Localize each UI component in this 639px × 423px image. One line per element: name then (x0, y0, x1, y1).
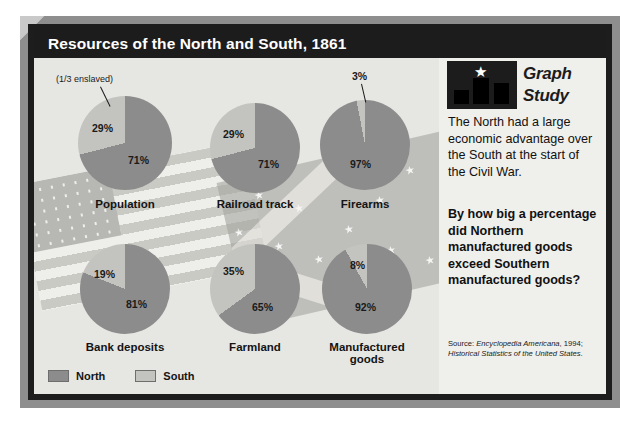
pie-manufactured-goods (322, 244, 412, 334)
pie-population-north-value: 71% (128, 154, 149, 166)
source-citation: Source: Encyclopedia Americana, 1994; Hi… (448, 339, 598, 359)
side-panel: ★ Graph Study The North had a large econ… (439, 58, 606, 394)
source-prefix: Source: (448, 339, 476, 348)
logo-bar-chart-icon: ★ (447, 61, 517, 109)
pie-population (78, 96, 172, 190)
star-icon: ★ (474, 64, 487, 79)
infographic-root: Resources of the North and South, 1861 ★… (0, 0, 639, 423)
legend-label-north: North (76, 370, 105, 382)
pie-firearms (320, 100, 410, 190)
logo-text-line-1: Graph (523, 63, 572, 85)
pie-farmland-north-value: 65% (252, 301, 273, 313)
pie-railroad-track (210, 103, 300, 193)
confederate-star-icon: ★ (424, 254, 436, 267)
chart-area: ★ ★ ★ ★ ★ ★ ★ ★ ★ ★ 71% 29% Population (… (34, 58, 439, 394)
logo-bar-1 (454, 90, 469, 104)
pie-bank-deposits (80, 244, 170, 334)
pie-manufactured-goods-south-value: 8% (350, 259, 365, 271)
page-title: Resources of the North and South, 1861 (48, 35, 346, 53)
pie-farmland (210, 244, 300, 334)
confederate-star-icon: ★ (404, 164, 416, 177)
enslaved-annotation: (1/3 enslaved) (56, 74, 113, 84)
pie-railroad-track-north-value: 71% (258, 158, 279, 170)
pie-population-label: Population (78, 198, 172, 210)
legend: North South (48, 370, 195, 382)
pie-farmland-south-value: 35% (223, 265, 244, 277)
source-end: . (581, 349, 583, 358)
confederate-star-icon: ★ (343, 223, 355, 236)
poster-surface: Resources of the North and South, 1861 ★… (34, 30, 606, 394)
source-mid: , 1994; (560, 339, 583, 348)
pie-firearms-south-value: 3% (352, 70, 367, 82)
pie-bank-deposits-south-value: 19% (94, 268, 115, 280)
logo-text-line-2: Study (523, 85, 572, 107)
legend-label-south: South (163, 370, 194, 382)
panel-question-text: By how big a percentage did Northern man… (448, 206, 598, 289)
pie-bank-deposits-label: Bank deposits (65, 341, 185, 353)
legend-swatch-north (48, 370, 69, 382)
source-title-1: Encyclopedia Americana (476, 339, 559, 348)
source-title-2: Historical Statistics of the United Stat… (448, 349, 581, 358)
pie-firearms-label: Firearms (320, 198, 410, 210)
pie-bank-deposits-north-value: 81% (126, 298, 147, 310)
logo-bar-3 (494, 83, 509, 104)
pie-railroad-track-south-value: 29% (223, 128, 244, 140)
confederate-star-icon: ★ (313, 253, 325, 266)
graph-study-logo: ★ Graph Study (447, 61, 599, 109)
pie-firearms-north-value: 97% (350, 158, 371, 170)
pie-farmland-label: Farmland (210, 341, 300, 353)
logo-text: Graph Study (523, 63, 572, 107)
logo-bar-2 (473, 78, 489, 104)
pie-manufactured-goods-label: Manufactured goods (312, 341, 422, 365)
legend-swatch-south (135, 370, 156, 382)
confederate-star-icon: ★ (233, 226, 245, 239)
pie-population-south-value: 29% (92, 122, 113, 134)
pie-manufactured-goods-north-value: 92% (355, 301, 376, 313)
panel-body-text: The North had a large economic advantage… (448, 114, 598, 180)
pie-railroad-track-label: Railroad track (190, 198, 320, 210)
title-bar: Resources of the North and South, 1861 (34, 30, 606, 58)
